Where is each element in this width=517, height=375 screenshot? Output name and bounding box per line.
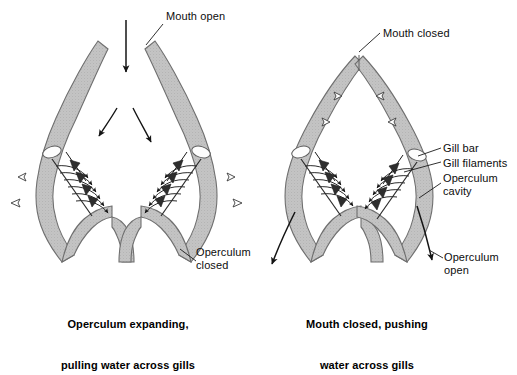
caption-right-line2: water across gills xyxy=(262,359,472,373)
label-gill-bar: Gill bar xyxy=(443,142,479,155)
label-operculum-open: Operculum open xyxy=(444,251,499,276)
left-panel-flow-arrow-left xyxy=(99,108,117,136)
caption-left-line1: Operculum expanding, xyxy=(18,318,238,332)
label-mouth-open: Mouth open xyxy=(166,10,225,23)
left-panel-expansion-arrows-right xyxy=(227,173,242,207)
left-panel-gill-arch-left xyxy=(52,152,108,216)
label-operculum-cavity: Operculum cavity xyxy=(443,172,498,197)
caption-left-panel: Operculum expanding, pulling water acros… xyxy=(18,291,238,375)
right-panel-outflow-arrow-left xyxy=(272,212,295,264)
caption-right-line1: Mouth closed, pushing xyxy=(262,318,472,332)
left-panel-flow-arrow-right xyxy=(133,108,151,142)
label-operculum-closed: Operculum closed xyxy=(196,246,251,271)
left-panel-lower-right-body xyxy=(141,206,191,262)
caption-right-panel: Mouth closed, pushing water across gills xyxy=(262,291,472,375)
left-panel-graphic xyxy=(11,20,242,262)
left-panel-expansion-arrows-left xyxy=(11,173,26,207)
right-panel-graphic xyxy=(272,33,443,264)
left-panel-lower-left-body xyxy=(62,206,112,262)
right-panel-mouth-leader xyxy=(359,33,380,52)
label-gill-filaments: Gill filaments xyxy=(443,157,507,170)
right-panel-gill-arch-right xyxy=(365,155,417,219)
label-mouth-closed: Mouth closed xyxy=(383,27,450,40)
right-panel-lower-left-body xyxy=(311,206,361,262)
left-panel-gill-arch-right xyxy=(145,152,201,216)
caption-left-line2: pulling water across gills xyxy=(18,359,238,373)
